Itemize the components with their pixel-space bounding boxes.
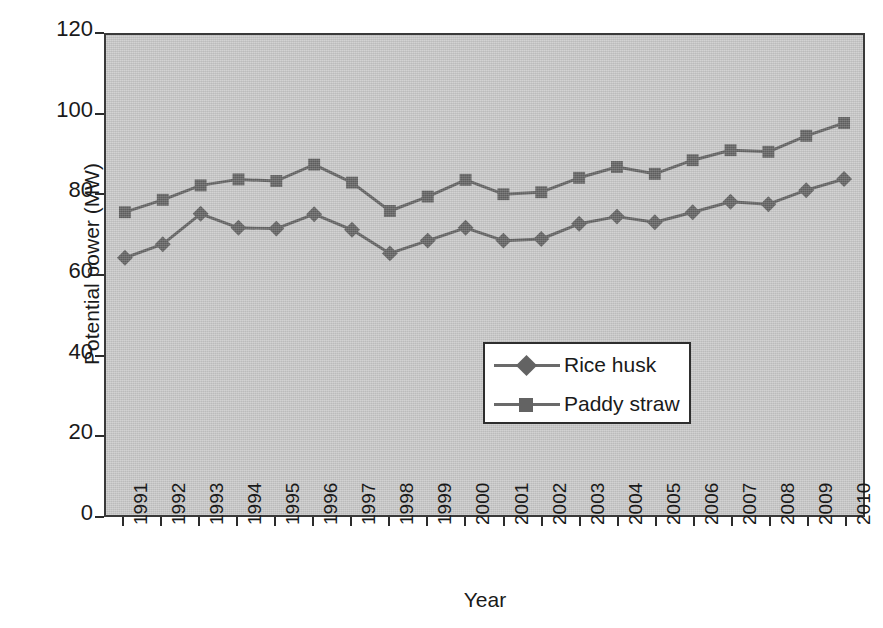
series-canvas bbox=[106, 35, 863, 515]
square-marker-icon bbox=[384, 205, 396, 217]
x-tick-mark bbox=[731, 517, 733, 526]
x-tick-mark bbox=[541, 517, 543, 526]
y-tick-label: 80 bbox=[13, 179, 93, 201]
x-axis-title: Year bbox=[104, 588, 866, 612]
x-tick-mark bbox=[198, 517, 200, 526]
x-tick-label: 2005 bbox=[664, 465, 683, 525]
diamond-marker-icon bbox=[344, 222, 360, 238]
diamond-marker-icon bbox=[117, 250, 133, 266]
x-tick-label: 2010 bbox=[854, 465, 873, 525]
x-tick-label: 1992 bbox=[169, 465, 188, 525]
diamond-marker-icon bbox=[571, 216, 587, 232]
square-marker-icon bbox=[119, 206, 131, 218]
square-marker-icon bbox=[308, 159, 320, 171]
x-tick-label: 1991 bbox=[131, 465, 150, 525]
x-tick-label: 2007 bbox=[740, 465, 759, 525]
x-tick-label: 1998 bbox=[397, 465, 416, 525]
diamond-marker-icon bbox=[268, 221, 284, 237]
x-tick-mark bbox=[388, 517, 390, 526]
x-tick-label: 2008 bbox=[778, 465, 797, 525]
x-tick-label: 1997 bbox=[359, 465, 378, 525]
series-line bbox=[125, 179, 844, 258]
square-marker-icon bbox=[422, 191, 434, 203]
x-tick-mark bbox=[122, 517, 124, 526]
legend-label-rice-husk: Rice husk bbox=[564, 353, 656, 377]
y-tick-mark bbox=[95, 435, 104, 437]
diamond-marker-icon bbox=[494, 353, 560, 377]
diamond-marker-icon bbox=[533, 231, 549, 247]
legend-item-paddy-straw[interactable]: Paddy straw bbox=[485, 383, 689, 424]
x-tick-mark bbox=[769, 517, 771, 526]
y-tick-label: 40 bbox=[13, 341, 93, 363]
x-tick-mark bbox=[312, 517, 314, 526]
y-tick-mark bbox=[95, 274, 104, 276]
square-marker-icon bbox=[535, 186, 547, 198]
x-tick-label: 1999 bbox=[435, 465, 454, 525]
square-marker-icon bbox=[346, 177, 358, 189]
x-tick-label: 2009 bbox=[816, 465, 835, 525]
diamond-marker-icon bbox=[647, 214, 663, 230]
x-tick-mark bbox=[236, 517, 238, 526]
x-tick-label: 1994 bbox=[245, 465, 264, 525]
x-tick-label: 2003 bbox=[588, 465, 607, 525]
y-tick-mark bbox=[95, 113, 104, 115]
line-chart-figure: Potential power (MW) 120100806040200 Ric… bbox=[0, 0, 883, 628]
square-marker-icon bbox=[573, 172, 585, 184]
square-marker-icon bbox=[270, 175, 282, 187]
square-marker-icon bbox=[497, 188, 509, 200]
diamond-marker-icon bbox=[798, 182, 814, 198]
series-line bbox=[125, 123, 844, 212]
square-marker-icon bbox=[762, 146, 774, 158]
diamond-marker-icon bbox=[382, 245, 398, 261]
x-tick-mark bbox=[464, 517, 466, 526]
square-marker-icon bbox=[611, 161, 623, 173]
legend-label-paddy-straw: Paddy straw bbox=[564, 392, 680, 416]
y-tick-label: 60 bbox=[13, 260, 93, 282]
x-tick-label: 2001 bbox=[512, 465, 531, 525]
diamond-marker-icon bbox=[231, 220, 247, 236]
diamond-marker-icon bbox=[760, 196, 776, 212]
x-tick-mark bbox=[274, 517, 276, 526]
x-tick-mark bbox=[693, 517, 695, 526]
square-marker-icon bbox=[157, 194, 169, 206]
x-tick-mark bbox=[617, 517, 619, 526]
square-marker-icon bbox=[725, 144, 737, 156]
diamond-marker-icon bbox=[306, 206, 322, 222]
diamond-marker-icon bbox=[609, 209, 625, 225]
x-tick-label: 1995 bbox=[283, 465, 302, 525]
x-tick-label: 2006 bbox=[702, 465, 721, 525]
diamond-marker-icon bbox=[685, 204, 701, 220]
diamond-marker-icon bbox=[458, 220, 474, 236]
x-tick-mark bbox=[579, 517, 581, 526]
x-tick-mark bbox=[426, 517, 428, 526]
series-rice-husk bbox=[117, 171, 852, 266]
diamond-marker-icon bbox=[836, 171, 852, 187]
x-tick-mark bbox=[160, 517, 162, 526]
x-tick-label: 1996 bbox=[321, 465, 340, 525]
x-tick-mark bbox=[655, 517, 657, 526]
y-tick-label: 0 bbox=[13, 502, 93, 524]
x-tick-label: 2002 bbox=[550, 465, 569, 525]
x-tick-mark bbox=[807, 517, 809, 526]
x-tick-label: 2000 bbox=[473, 465, 492, 525]
square-marker-icon bbox=[460, 174, 472, 186]
x-tick-mark bbox=[503, 517, 505, 526]
y-tick-label: 120 bbox=[13, 18, 93, 40]
y-tick-mark bbox=[95, 32, 104, 34]
y-tick-mark bbox=[95, 193, 104, 195]
x-tick-label: 2004 bbox=[626, 465, 645, 525]
y-tick-label: 100 bbox=[13, 99, 93, 121]
y-tick-label: 20 bbox=[13, 421, 93, 443]
square-marker-icon bbox=[494, 392, 560, 416]
square-marker-icon bbox=[838, 117, 850, 129]
chart-legend: Rice husk Paddy straw bbox=[483, 342, 691, 424]
x-tick-mark bbox=[845, 517, 847, 526]
diamond-marker-icon bbox=[723, 194, 739, 210]
legend-item-rice-husk[interactable]: Rice husk bbox=[485, 344, 689, 385]
plot-area bbox=[104, 33, 865, 517]
square-marker-icon bbox=[233, 173, 245, 185]
square-marker-icon bbox=[649, 168, 661, 180]
y-tick-mark bbox=[95, 355, 104, 357]
square-marker-icon bbox=[687, 154, 699, 166]
square-marker-icon bbox=[800, 130, 812, 142]
